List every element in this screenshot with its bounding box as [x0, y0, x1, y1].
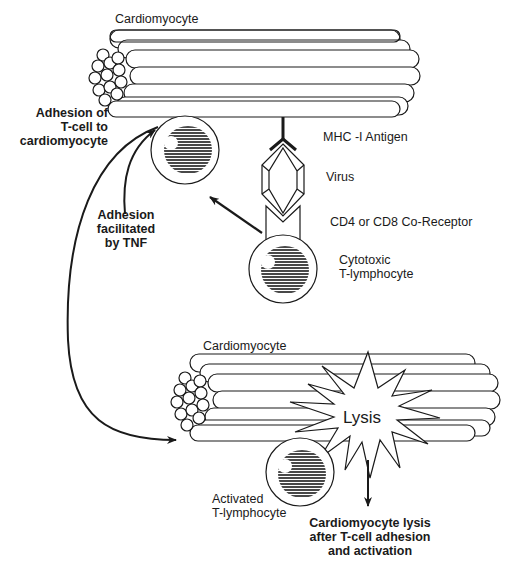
- adhesion-label: Adhesion of T-cell to cardiomyocyte: [8, 106, 108, 148]
- activated-label: Activated T-lymphocyte: [212, 492, 286, 520]
- coreceptor-label: CD4 or CD8 Co-Receptor: [330, 215, 472, 229]
- diagram-canvas: Cardiomyocyte Adhesion of T-cell to card…: [0, 0, 509, 564]
- outcome-label: Cardiomyocyte lysis after T-cell adhesio…: [300, 516, 440, 558]
- top-cardiomyocyte: [89, 30, 420, 117]
- virus-label: Virus: [326, 170, 354, 184]
- migration-arrow: [210, 197, 262, 233]
- virus: [262, 144, 304, 216]
- adhered-t-cell: [151, 116, 219, 184]
- mhc-label: MHC -I Antigen: [323, 130, 408, 144]
- cytotoxic-t-lymphocyte: [249, 235, 317, 303]
- tnf-label: Adhesion facilitated by TNF: [90, 208, 162, 250]
- transition-arrow: [68, 127, 176, 440]
- ctl-label: Cytotoxic T-lymphocyte: [339, 253, 413, 281]
- top-cardiomyocyte-label: Cardiomyocyte: [115, 12, 198, 26]
- lysis-label: Lysis: [343, 408, 381, 427]
- diagram-graphics: [0, 0, 509, 564]
- bottom-cardiomyocyte-label: Cardiomyocyte: [203, 339, 286, 353]
